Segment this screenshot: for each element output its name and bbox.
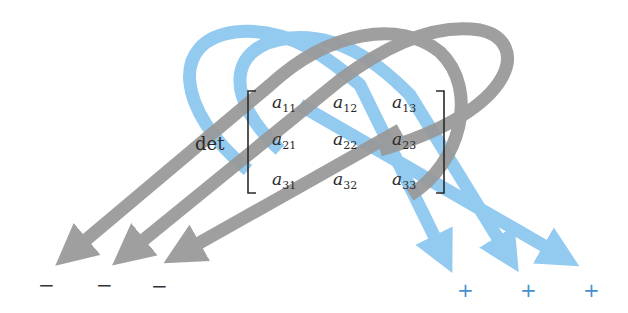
minus-sign-1: − [38,273,55,297]
positive-signs: + + + [457,278,600,302]
matrix-cell-12: a12 [333,92,357,115]
plus-sign-3: + [583,278,600,302]
negative-signs: − − − [38,273,168,298]
plus-sign-1: + [457,278,474,302]
minus-sign-2: − [96,273,113,297]
matrix-cell-31: a31 [272,169,296,192]
det-label: det [195,133,225,154]
matrix: a11 a12 a13 a21 a22 a23 a31 a32 a33 [272,92,416,192]
plus-sign-2: + [520,278,537,302]
sarrus-diagram: det a11 a12 a13 a21 a22 a23 a31 a32 a33 … [0,0,628,313]
minus-sign-3: − [151,274,168,298]
matrix-cell-32: a32 [333,169,357,192]
matrix-cell-11: a11 [272,92,296,115]
